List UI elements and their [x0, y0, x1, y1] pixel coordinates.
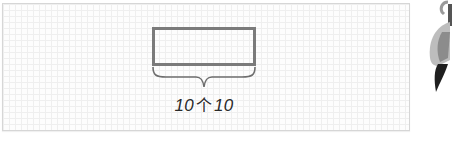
curly-brace-icon — [150, 66, 258, 92]
brace-label: 10个10 — [150, 92, 258, 116]
right-number: 10 — [214, 96, 233, 115]
paintbrush-icon — [404, 0, 454, 100]
left-number: 10 — [175, 96, 194, 115]
measure-word: 个 — [196, 96, 212, 115]
bar-rectangle — [152, 27, 256, 66]
